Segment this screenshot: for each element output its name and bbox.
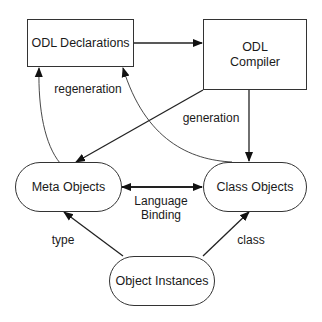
node-label: Object Instances — [115, 274, 208, 289]
node-meta-objects: Meta Objects — [15, 162, 122, 212]
node-odl-declarations: ODL Declarations — [27, 19, 134, 67]
node-label: ODL Declarations — [31, 36, 129, 51]
label-regeneration: regeneration — [48, 82, 128, 96]
node-odl-compiler: ODL Compiler — [203, 19, 307, 90]
label-language-binding: Language Binding — [127, 194, 195, 222]
label-type: type — [48, 233, 78, 247]
label-class: class — [233, 233, 269, 247]
node-class-objects: Class Objects — [203, 162, 307, 212]
label-generation: generation — [178, 111, 244, 125]
node-label: Class Objects — [216, 180, 293, 195]
edge-compiler-to-meta-objects — [76, 90, 203, 162]
node-object-instances: Object Instances — [109, 256, 215, 306]
node-label: Meta Objects — [32, 180, 106, 195]
node-label: ODL Compiler — [230, 40, 280, 70]
